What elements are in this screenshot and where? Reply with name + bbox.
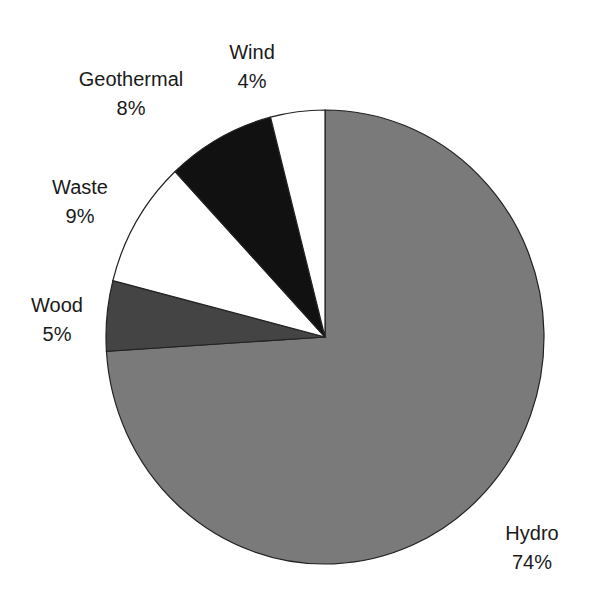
- slice-label-wood: Wood5%: [31, 294, 83, 345]
- pie-slices: [106, 110, 544, 564]
- pie-chart: Hydro74%Wood5%Waste9%Geothermal8%Wind4%: [0, 0, 596, 599]
- slice-label-hydro: Hydro74%: [505, 522, 558, 573]
- slice-label-geothermal: Geothermal8%: [79, 68, 184, 119]
- slice-label-waste: Waste9%: [52, 176, 108, 227]
- slice-label-wind: Wind4%: [229, 41, 275, 92]
